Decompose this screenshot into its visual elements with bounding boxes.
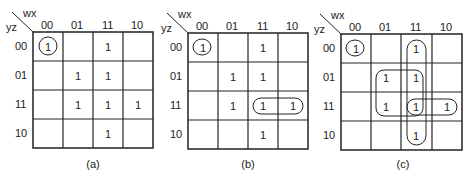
- cell-r1-c0: [341, 63, 371, 92]
- cell-r1-c3: [123, 61, 153, 90]
- cell-r0-c2: 1: [401, 34, 431, 63]
- row-label-11: 11: [170, 100, 181, 111]
- cell-r3-c2: 1: [248, 120, 278, 149]
- cell-r2-c3: 1: [432, 92, 462, 121]
- cell-r0-c0: 1: [33, 32, 63, 61]
- cell-r2-c0: [33, 90, 63, 119]
- kmap-a: wx yz 00 01 11 10 00 01 11 10 1 1 1 1 1 …: [0, 0, 155, 179]
- cell-r1-c0: [188, 62, 218, 91]
- cell-r3-c2: 1: [401, 121, 431, 150]
- column-var-label: wx: [178, 9, 191, 20]
- cell-r2-c1: 1: [218, 91, 248, 120]
- cell-r0-c2: 1: [93, 32, 123, 61]
- caption: (c): [397, 158, 410, 170]
- row-label-00: 00: [170, 42, 182, 53]
- row-var-label: yz: [161, 23, 172, 34]
- cell-r0-c2: 1: [248, 33, 278, 62]
- cell-r0-c1: [371, 34, 401, 63]
- col-label-11: 11: [410, 22, 421, 33]
- caption: (a): [86, 158, 99, 170]
- cell-r3-c2: 1: [93, 119, 123, 148]
- cell-r0-c3: [432, 34, 462, 63]
- col-label-00: 00: [41, 20, 53, 31]
- row-label-10: 10: [15, 128, 27, 139]
- cell-r0-c3: [123, 32, 153, 61]
- cell-r0-c1: [218, 33, 248, 62]
- row-label-10: 10: [323, 130, 335, 141]
- row-label-01: 01: [15, 70, 27, 81]
- cell-r1-c2: 1: [248, 62, 278, 91]
- row-label-00: 00: [323, 43, 335, 54]
- col-label-01: 01: [379, 22, 391, 33]
- cell-r2-c1: 1: [63, 90, 93, 119]
- cell-r2-c3: 1: [278, 91, 308, 120]
- cell-r2-c2: 1: [93, 90, 123, 119]
- cell-r2-c2: 1: [401, 92, 431, 121]
- cell-r1-c3: [432, 63, 462, 92]
- cell-r3-c1: [218, 120, 248, 149]
- cell-r0-c3: [278, 33, 308, 62]
- column-var-label: wx: [23, 8, 36, 19]
- col-label-00: 00: [349, 22, 361, 33]
- cell-r3-c3: [123, 119, 153, 148]
- cell-r3-c1: [63, 119, 93, 148]
- row-label-00: 00: [15, 41, 27, 52]
- col-label-11: 11: [102, 20, 113, 31]
- row-var-label: yz: [6, 22, 17, 33]
- kmap-c: wx yz 00 01 11 10 00 01 11 10 1 1 1 1 1 …: [308, 0, 463, 179]
- cell-r3-c3: [278, 120, 308, 149]
- col-label-11: 11: [257, 21, 268, 32]
- row-label-01: 01: [323, 72, 335, 83]
- cell-r1-c3: [278, 62, 308, 91]
- cell-r3-c0: [33, 119, 63, 148]
- col-label-10: 10: [131, 20, 143, 31]
- cell-r1-c1: 1: [63, 61, 93, 90]
- cell-r3-c1: [371, 121, 401, 150]
- cell-r1-c0: [33, 61, 63, 90]
- col-label-01: 01: [226, 21, 238, 32]
- cell-r3-c0: [188, 120, 218, 149]
- cell-r1-c1: 1: [218, 62, 248, 91]
- row-var-label: yz: [314, 24, 325, 35]
- col-label-10: 10: [440, 22, 452, 33]
- kmap-b: wx yz 00 01 11 10 00 01 11 10 1 1 1 1 1 …: [155, 0, 310, 179]
- col-label-10: 10: [286, 21, 298, 32]
- cell-r3-c0: [341, 121, 371, 150]
- col-label-00: 00: [196, 21, 208, 32]
- cell-r0-c0: 1: [188, 33, 218, 62]
- cell-r2-c0: [188, 91, 218, 120]
- cell-r0-c1: [63, 32, 93, 61]
- row-label-11: 11: [323, 101, 334, 112]
- row-label-01: 01: [170, 71, 182, 82]
- row-label-11: 11: [15, 99, 26, 110]
- caption: (b): [241, 158, 254, 170]
- column-var-label: wx: [331, 10, 344, 21]
- row-label-10: 10: [170, 129, 182, 140]
- cell-r2-c3: 1: [123, 90, 153, 119]
- cell-r2-c0: [341, 92, 371, 121]
- cell-r2-c1: 1: [371, 92, 401, 121]
- cell-r2-c2: 1: [248, 91, 278, 120]
- cell-r1-c1: 1: [371, 63, 401, 92]
- cell-r1-c2: 1: [401, 63, 431, 92]
- cell-r1-c2: 1: [93, 61, 123, 90]
- col-label-01: 01: [71, 20, 83, 31]
- cell-r0-c0: 1: [341, 34, 371, 63]
- cell-r3-c3: [432, 121, 462, 150]
